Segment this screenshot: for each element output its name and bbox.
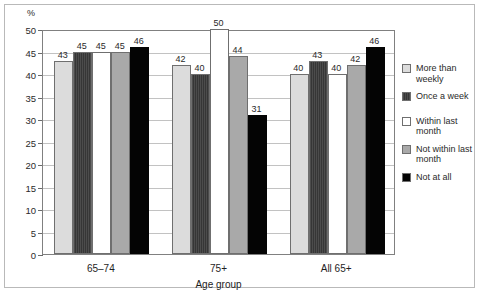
- y-tick-label-45: 45: [10, 47, 36, 58]
- bar-value-1-3: 44: [232, 45, 242, 55]
- bar-value-1-0: 42: [175, 54, 185, 64]
- bar-0-3: [111, 52, 130, 255]
- bar-value-1-2: 50: [213, 18, 223, 28]
- y-tick-label-30: 30: [10, 115, 36, 126]
- legend-label-4: Not at all: [416, 172, 452, 183]
- legend-item-2[interactable]: Within last month: [402, 116, 476, 137]
- x-group-label-1: 75+: [210, 263, 227, 274]
- x-axis-title: Age group: [195, 279, 241, 290]
- chart-legend: More than weeklyOnce a weekWithin last m…: [402, 63, 476, 189]
- bar-0-2: [92, 52, 111, 255]
- swatch-more-than-weekly: [402, 64, 411, 73]
- bar-0-1: [73, 52, 92, 255]
- bar-value-1-4: 31: [251, 104, 261, 114]
- bar-1-0: [172, 65, 191, 254]
- legend-item-0[interactable]: More than weekly: [402, 63, 476, 84]
- y-axis-unit-label: %: [27, 8, 35, 18]
- bar-2-0: [290, 74, 309, 254]
- legend-item-1[interactable]: Once a week: [402, 91, 476, 102]
- swatch-once-a-week: [402, 92, 411, 101]
- bar-value-2-4: 46: [369, 36, 379, 46]
- legend-label-3: Not within last month: [416, 144, 476, 165]
- bar-value-0-2: 45: [96, 41, 106, 51]
- swatch-not-within-last-month: [402, 145, 411, 154]
- bar-value-2-3: 42: [350, 54, 360, 64]
- y-tick-label-10: 10: [10, 205, 36, 216]
- plot-area: [42, 30, 395, 255]
- legend-item-3[interactable]: Not within last month: [402, 144, 476, 165]
- bar-0-4: [130, 47, 149, 254]
- bar-value-0-0: 43: [58, 50, 68, 60]
- legend-item-4[interactable]: Not at all: [402, 172, 476, 183]
- bar-2-4: [366, 47, 385, 254]
- plot-inner: [43, 31, 394, 254]
- y-tick-label-35: 35: [10, 92, 36, 103]
- legend-label-0: More than weekly: [416, 63, 476, 84]
- bar-1-1: [191, 74, 210, 254]
- bar-0-0: [54, 61, 73, 255]
- y-tick-label-50: 50: [10, 25, 36, 36]
- bar-chart-figure: % 05101520253035404550 43454545464240504…: [0, 0, 480, 294]
- bar-value-0-4: 46: [134, 36, 144, 46]
- bar-value-2-2: 40: [331, 63, 341, 73]
- bar-value-0-3: 45: [115, 41, 125, 51]
- y-tick-label-40: 40: [10, 70, 36, 81]
- swatch-within-last-month: [402, 117, 411, 126]
- bar-2-3: [347, 65, 366, 254]
- x-group-label-2: All 65+: [321, 263, 352, 274]
- bar-1-4: [248, 115, 267, 255]
- legend-label-1: Once a week: [416, 91, 469, 102]
- legend-label-2: Within last month: [416, 116, 476, 137]
- y-tick-label-25: 25: [10, 137, 36, 148]
- y-tick-mark-0: [38, 255, 43, 256]
- y-tick-label-15: 15: [10, 182, 36, 193]
- bar-value-2-0: 40: [293, 63, 303, 73]
- bar-value-2-1: 43: [312, 50, 322, 60]
- bar-value-1-1: 40: [194, 63, 204, 73]
- bar-1-2: [210, 29, 229, 254]
- bar-2-2: [328, 74, 347, 254]
- x-group-label-0: 65–74: [87, 263, 115, 274]
- swatch-not-at-all: [402, 173, 411, 182]
- bar-2-1: [309, 61, 328, 255]
- bar-1-3: [229, 56, 248, 254]
- y-tick-label-0: 0: [10, 250, 36, 261]
- bar-value-0-1: 45: [77, 41, 87, 51]
- y-tick-label-20: 20: [10, 160, 36, 171]
- y-tick-label-5: 5: [10, 227, 36, 238]
